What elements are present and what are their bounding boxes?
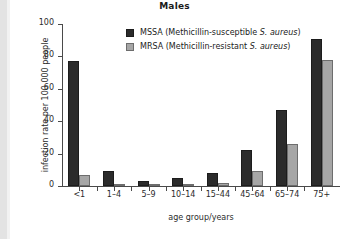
bar-pair <box>304 24 339 186</box>
bar-mrsa <box>252 171 263 186</box>
y-axis-tick-mark <box>58 186 62 187</box>
y-axis-label-host: infection rate per 100 000 people <box>20 24 30 186</box>
x-axis-label: age group/years <box>62 213 340 222</box>
bar-group: <1 <box>62 24 97 186</box>
x-axis-boundary-tick <box>304 186 305 191</box>
x-axis-boundary-tick <box>235 186 236 191</box>
legend-label-mrsa: MRSA (Methicillin-resistant S. aureus) <box>140 42 290 51</box>
chart-title: Males <box>0 1 349 11</box>
y-axis-tick-label: 20 <box>44 148 54 157</box>
bar-mrsa <box>149 184 160 186</box>
y-axis-tick-label: 100 <box>39 18 54 27</box>
y-axis-tick-label: 40 <box>44 115 54 124</box>
bar-mrsa <box>183 184 194 186</box>
x-axis-tick-label: <1 <box>62 190 97 199</box>
x-axis-tick-label: 10–14 <box>166 190 201 199</box>
bar-mssa <box>172 178 183 186</box>
bar-mrsa <box>114 184 125 186</box>
x-axis-tick-label: 15–44 <box>201 190 236 199</box>
x-axis-tick-label: 75+ <box>304 190 339 199</box>
x-axis-tick-label: 65–74 <box>270 190 305 199</box>
y-axis-tick-label: 0 <box>49 180 54 189</box>
page-edge-artifact-soft <box>7 0 10 239</box>
bar-group: 75+ <box>304 24 339 186</box>
legend-item-mrsa: MRSA (Methicillin-resistant S. aureus) <box>126 42 301 51</box>
x-axis-tick-label: 5–9 <box>131 190 166 199</box>
bar-mssa <box>138 181 149 186</box>
legend-swatch-mssa-icon <box>126 29 134 37</box>
bar-pair <box>62 24 97 186</box>
x-axis-boundary-tick <box>131 186 132 191</box>
bar-mrsa <box>79 175 90 186</box>
legend-item-mssa: MSSA (Methicillin-susceptible S. aureus) <box>126 28 301 37</box>
y-axis-tick-label: 80 <box>44 50 54 59</box>
legend-swatch-mrsa-icon <box>126 43 134 51</box>
bar-mrsa <box>322 60 333 186</box>
bar-mrsa <box>287 144 298 186</box>
x-axis-tick-label: 45–64 <box>235 190 270 199</box>
bar-mssa <box>276 110 287 186</box>
bar-mssa <box>68 61 79 186</box>
bar-mrsa <box>218 183 229 186</box>
bar-mssa <box>207 173 218 186</box>
x-axis-tick-label: 1–4 <box>97 190 132 199</box>
legend-label-mssa: MSSA (Methicillin-susceptible S. aureus) <box>140 28 301 37</box>
page-edge-artifact <box>0 0 7 239</box>
y-axis-tick-label: 60 <box>44 83 54 92</box>
legend: MSSA (Methicillin-susceptible S. aureus)… <box>126 28 301 51</box>
x-axis-boundary-tick <box>201 186 202 191</box>
x-axis-boundary-tick <box>166 186 167 191</box>
bar-mssa <box>311 39 322 186</box>
bar-mssa <box>103 171 114 186</box>
x-axis-boundary-tick <box>270 186 271 191</box>
bar-mssa <box>241 150 252 186</box>
x-axis-boundary-tick <box>97 186 98 191</box>
chart-figure: Males infection rate per 100 000 people … <box>0 0 349 239</box>
